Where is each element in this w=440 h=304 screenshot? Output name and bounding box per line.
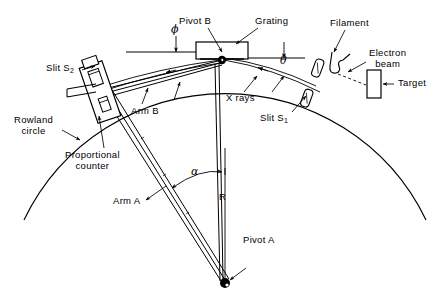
label-slit-s1-sub: 1 [284, 117, 288, 124]
label-arm-a: Arm A [113, 196, 140, 207]
arm-a [104, 64, 229, 281]
label-slit-s1-text: Slit S [260, 112, 284, 123]
label-angle-theta: θ [280, 55, 287, 68]
label-filament: Filament [330, 18, 369, 29]
label-proportional-line2: counter [76, 160, 110, 171]
label-x-rays: X rays [226, 93, 255, 104]
label-rowland-circle: Rowland circle [14, 115, 53, 137]
label-pivot-b: Pivot B [179, 16, 211, 27]
label-slit-s2-text: Slit S [46, 62, 70, 73]
filament-coil [330, 52, 350, 73]
label-electron-beam-line2: beam [375, 58, 400, 69]
label-radius-r: R [219, 192, 226, 203]
label-slit-s1: Slit S1 [260, 113, 288, 125]
label-angle-alpha: α [191, 166, 199, 179]
proportional-counter-assembly [67, 55, 121, 123]
label-angle-phi: ϕ [171, 24, 179, 37]
label-proportional-counter: Proportional counter [65, 150, 120, 172]
label-pivot-a: Pivot A [243, 235, 275, 246]
label-target: Target [398, 78, 426, 89]
electron-beam-path [338, 74, 366, 85]
label-grating: Grating [255, 16, 288, 27]
label-slit-s2: Slit S2 [46, 63, 74, 75]
label-proportional-line1: Proportional [65, 149, 120, 160]
label-electron-beam: Electron beam [369, 48, 406, 70]
label-rowland-line1: Rowland [14, 114, 53, 125]
label-slit-s2-sub: 2 [70, 67, 74, 74]
slit-s1-jaws [300, 58, 325, 108]
label-electron-beam-line1: Electron [369, 47, 406, 58]
figure-canvas: Pivot B Grating Filament Electron beam T… [0, 0, 440, 304]
target-block [367, 70, 381, 98]
label-arm-b: Arm B [131, 106, 159, 117]
label-rowland-line2: circle [22, 125, 46, 136]
